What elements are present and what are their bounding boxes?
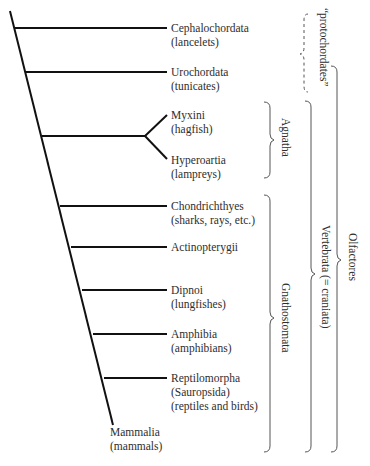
taxon-name: Cephalochordata xyxy=(171,21,249,35)
group-label-gnathostomata: Gnathostomata xyxy=(280,283,292,353)
taxon-name: Dipnoi xyxy=(171,283,226,297)
taxon-myxini: Myxini (hagfish) xyxy=(171,108,213,136)
bracket-agnatha xyxy=(264,102,274,178)
taxon-urochordata: Urochordata (tunicates) xyxy=(171,65,228,93)
taxon-common: (lampreys) xyxy=(171,167,226,181)
taxon-common: (tunicates) xyxy=(171,79,228,93)
taxon-common: (amphibians) xyxy=(171,341,232,355)
taxon-name: Amphibia xyxy=(171,327,232,341)
taxon-common: (Sauropsida) xyxy=(171,385,258,399)
taxon-cephalochordata: Cephalochordata (lancelets) xyxy=(171,21,249,49)
taxon-common: (lancelets) xyxy=(171,35,249,49)
branch-myxini xyxy=(145,115,167,136)
group-label-agnatha: Agnatha xyxy=(280,118,292,157)
taxon-name: Actinopterygii xyxy=(171,240,238,254)
bracket-gnathostomata xyxy=(264,195,274,452)
taxon-common-2: (reptiles and birds) xyxy=(171,399,258,413)
taxon-name: Myxini xyxy=(171,108,213,122)
taxon-name: Reptilomorpha xyxy=(171,371,258,385)
bracket-vertebrata xyxy=(305,101,315,452)
taxon-chondrichthyes: Chondrichthyes (sharks, rays, etc.) xyxy=(171,199,255,227)
taxon-common: (hagfish) xyxy=(171,122,213,136)
taxon-reptilomorpha: Reptilomorpha (Sauropsida) (reptiles and… xyxy=(171,371,258,413)
group-label-olfactores: Olfactores xyxy=(347,233,359,281)
taxon-dipnoi: Dipnoi (lungfishes) xyxy=(171,283,226,311)
group-label-vertebrata: Vertebrata (= craniata) xyxy=(320,225,332,329)
taxon-amphibia: Amphibia (amphibians) xyxy=(171,327,232,355)
trunk-line xyxy=(10,11,113,425)
branch-hyperoartia xyxy=(145,136,167,159)
taxon-name: Hyperoartia xyxy=(171,153,226,167)
bracket-protochordates xyxy=(300,14,308,92)
taxon-actinopterygii: Actinopterygii xyxy=(171,240,238,254)
taxon-common: (lungfishes) xyxy=(171,297,226,311)
taxon-name: Mammalia xyxy=(110,425,162,439)
taxon-hyperoartia: Hyperoartia (lampreys) xyxy=(171,153,226,181)
taxon-mammalia: Mammalia (mammals) xyxy=(110,425,162,453)
bracket-olfactores xyxy=(331,66,341,452)
taxon-common: (mammals) xyxy=(110,439,162,453)
taxon-name: Urochordata xyxy=(171,65,228,79)
taxon-common: (sharks, rays, etc.) xyxy=(171,213,255,227)
taxon-name: Chondrichthyes xyxy=(171,199,255,213)
group-label-protochordates: “protochordates” xyxy=(318,8,330,87)
